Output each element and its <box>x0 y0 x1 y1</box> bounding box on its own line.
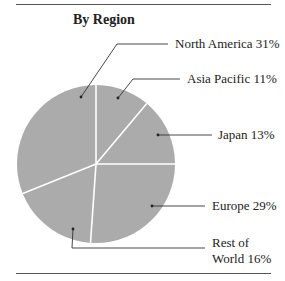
bottom-rule <box>16 273 271 274</box>
label-europe: Europe 29% <box>212 198 277 213</box>
label-rest-of-world-line2: World 16% <box>212 251 271 266</box>
label-japan: Japan 13% <box>218 127 275 142</box>
pie <box>17 85 175 243</box>
label-rest-of-world-line1: Rest of <box>212 235 249 250</box>
label-asia-pacific: Asia Pacific 11% <box>187 71 277 86</box>
label-north-america: North America 31% <box>175 36 280 51</box>
